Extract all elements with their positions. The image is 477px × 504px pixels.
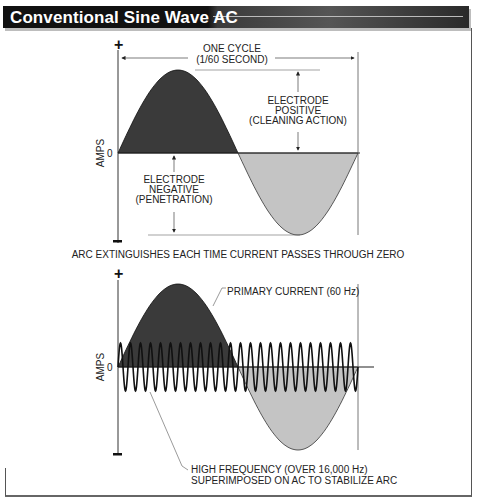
bottom-zero-label: 0 bbox=[107, 362, 113, 373]
cycle-label-2: (1/60 SECOND) bbox=[196, 54, 268, 65]
top-positive-half-wave bbox=[118, 70, 238, 153]
top-minus-sign bbox=[113, 240, 122, 243]
hf-leader-line bbox=[150, 392, 188, 470]
hf-label-2: SUPERIMPOSED ON AC TO STABILIZE ARC bbox=[191, 475, 397, 486]
bottom-minus-sign bbox=[113, 453, 122, 456]
bottom-negative-half-wave bbox=[238, 367, 358, 450]
bottom-sine-diagram: + AMPS 0 PRIMARY CURRENT (60 Hz) HIGH FR… bbox=[95, 265, 397, 486]
cycle-label-1: ONE CYCLE bbox=[203, 43, 261, 54]
top-caption: ARC EXTINGUISHES EACH TIME CURRENT PASSE… bbox=[72, 249, 405, 260]
top-negative-half-wave bbox=[238, 153, 358, 235]
top-plus-sign: + bbox=[114, 36, 123, 53]
bottom-y-axis-label: AMPS bbox=[95, 353, 106, 382]
bottom-positive-half-wave bbox=[118, 284, 238, 367]
positive-label-3: (CLEANING ACTION) bbox=[249, 115, 347, 126]
diagram-canvas: + AMPS 0 ONE CYCLE (1/60 SECOND) ELECTRO… bbox=[0, 0, 477, 504]
top-sine-diagram: + AMPS 0 ONE CYCLE (1/60 SECOND) ELECTRO… bbox=[72, 36, 405, 260]
negative-label-3: (PENETRATION) bbox=[135, 194, 212, 205]
top-zero-label: 0 bbox=[107, 148, 113, 159]
primary-leader-line bbox=[213, 288, 226, 306]
hf-label-1: HIGH FREQUENCY (OVER 16,000 Hz) bbox=[191, 464, 368, 475]
bottom-plus-sign: + bbox=[114, 265, 123, 282]
primary-current-label: PRIMARY CURRENT (60 Hz) bbox=[227, 286, 359, 297]
top-y-axis-label: AMPS bbox=[95, 139, 106, 168]
